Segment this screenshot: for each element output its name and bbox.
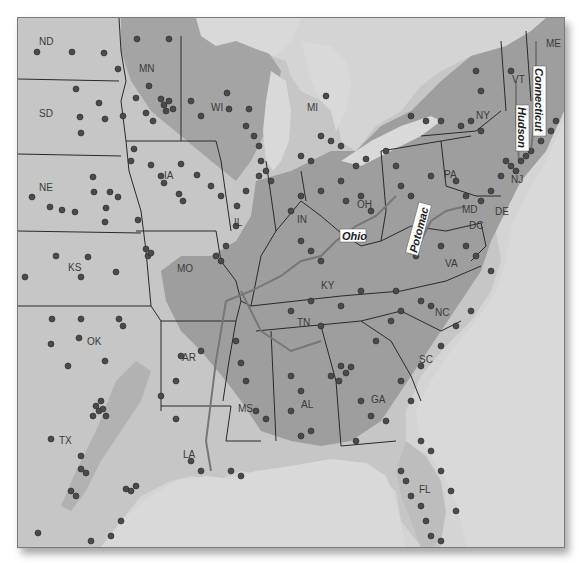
state-label-tx: TX — [59, 435, 72, 446]
state-label-ky: KY — [321, 280, 335, 291]
svg-text:Connecticut: Connecticut — [533, 68, 545, 133]
state-label-mo: MO — [177, 263, 193, 274]
svg-text:Ohio: Ohio — [342, 230, 367, 242]
river-label-connecticut: Connecticut — [533, 66, 546, 136]
map-canvas[interactable]: ND MN SD WI MI NE IA IL KS MO OK AR TX L… — [18, 18, 564, 547]
state-label-ms: MS — [238, 403, 253, 414]
state-label-dc: DC — [469, 220, 483, 231]
state-label-mi: MI — [307, 102, 318, 113]
state-label-fl: FL — [419, 484, 431, 495]
state-label-nc: NC — [435, 307, 449, 318]
state-label-ia: IA — [164, 170, 174, 181]
state-label-nj: NJ — [511, 174, 523, 185]
state-label-al: AL — [301, 399, 314, 410]
state-label-vt: VT — [512, 74, 525, 85]
state-label-ga: GA — [371, 394, 386, 405]
state-label-ne: NE — [39, 182, 53, 193]
map-frame: ND MN SD WI MI NE IA IL KS MO OK AR TX L… — [17, 17, 565, 548]
state-label-pa: PA — [444, 169, 457, 180]
state-label-sd: SD — [39, 108, 53, 119]
state-label-sc: SC — [419, 354, 433, 365]
state-label-mn: MN — [139, 63, 155, 74]
state-label-de: DE — [495, 206, 509, 217]
state-label-il: IL — [234, 217, 243, 228]
state-label-ks: KS — [68, 262, 82, 273]
state-label-oh: OH — [357, 199, 372, 210]
river-label-hudson: Hudson — [516, 105, 529, 151]
state-label-va: VA — [445, 258, 458, 269]
state-label-me: ME — [546, 38, 561, 49]
state-label-la: LA — [183, 449, 196, 460]
svg-text:Hudson: Hudson — [516, 107, 528, 148]
state-label-tn: TN — [297, 317, 310, 328]
river-label-ohio: Ohio — [340, 229, 367, 242]
state-label-md: MD — [462, 204, 478, 215]
state-label-ok: OK — [87, 336, 102, 347]
state-label-wi: WI — [211, 102, 223, 113]
state-label-in: IN — [297, 214, 307, 225]
state-label-ar: AR — [182, 352, 196, 363]
state-label-nd: ND — [39, 36, 53, 47]
state-label-ny: NY — [476, 110, 490, 121]
